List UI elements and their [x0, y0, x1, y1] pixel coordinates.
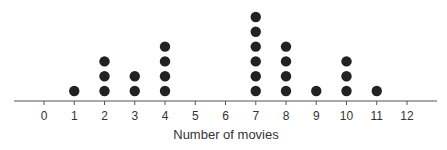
x-tick-label: 10: [340, 109, 354, 123]
data-dot: [99, 86, 109, 96]
data-dot: [251, 71, 261, 81]
data-dot: [281, 86, 291, 96]
x-tick-label: 11: [371, 109, 384, 123]
x-tick-label: 12: [400, 109, 414, 123]
x-axis-title: Number of movies: [173, 127, 279, 142]
data-dot: [99, 71, 109, 81]
dot-plot: 0123456789101112 Number of movies: [0, 0, 447, 150]
data-dot: [251, 56, 261, 66]
x-tick-label: 3: [131, 109, 138, 123]
data-dot: [311, 86, 321, 96]
data-dot: [372, 86, 382, 96]
x-tick-label: 0: [41, 109, 48, 123]
x-tick-label: 8: [283, 109, 290, 123]
data-dot: [341, 86, 351, 96]
data-dot: [130, 86, 140, 96]
data-dot: [69, 86, 79, 96]
data-dot: [281, 56, 291, 66]
x-tick-label: 5: [192, 109, 199, 123]
x-tick-label: 9: [313, 109, 320, 123]
data-dot: [341, 56, 351, 66]
x-tick-label: 6: [222, 109, 229, 123]
x-tick-label: 2: [101, 109, 108, 123]
x-tick-label: 7: [252, 109, 259, 123]
data-dot: [281, 71, 291, 81]
data-dot: [160, 41, 170, 51]
data-dot: [341, 71, 351, 81]
data-dot: [160, 56, 170, 66]
data-dot: [251, 86, 261, 96]
x-tick-label: 1: [71, 109, 78, 123]
data-dots: [69, 12, 382, 96]
data-dot: [251, 41, 261, 51]
x-tick-label: 4: [162, 109, 169, 123]
data-dot: [160, 86, 170, 96]
data-dot: [99, 56, 109, 66]
data-dot: [160, 71, 170, 81]
data-dot: [251, 27, 261, 37]
data-dot: [281, 41, 291, 51]
data-dot: [130, 71, 140, 81]
x-axis-tick-labels: 0123456789101112: [41, 109, 414, 123]
data-dot: [251, 12, 261, 22]
